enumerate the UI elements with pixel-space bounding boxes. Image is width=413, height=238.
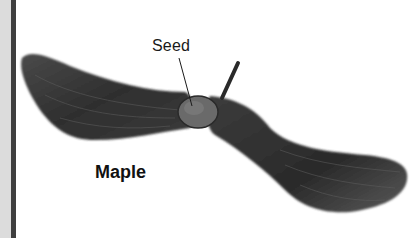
seed-stem: [222, 63, 238, 98]
species-label: Maple: [95, 162, 146, 183]
right-wing: [207, 96, 408, 212]
seed-label: Seed: [152, 37, 190, 55]
maple-samara-illustration: [0, 0, 413, 238]
